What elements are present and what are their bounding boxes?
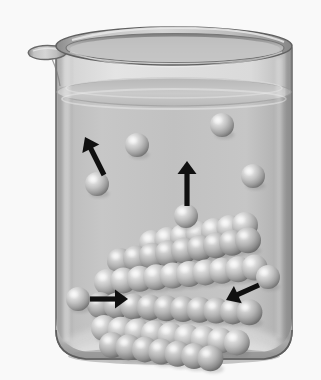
- beaker-illustration: [0, 0, 321, 380]
- beaker-scene: [0, 0, 321, 380]
- paper-grain-overlay: [0, 0, 321, 380]
